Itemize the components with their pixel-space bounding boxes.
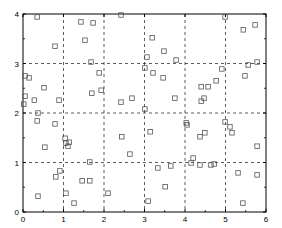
y-axis-tick-labels: 01234 [15,10,20,217]
data-point-marker [214,79,219,84]
data-point-marker [255,173,260,178]
scatter-chart: 0123456 01234 [0,0,282,228]
data-point-marker [150,36,155,41]
data-point-marker [191,156,196,161]
data-point-marker [36,194,41,199]
data-point-marker [128,152,133,157]
data-point-marker [145,55,150,60]
data-point-marker [79,20,84,25]
x-axis-tick-labels: 0123456 [21,215,269,224]
x-tick-label: 0 [21,215,26,224]
data-point-marker [90,91,95,96]
data-point-marker [206,85,211,90]
data-point-marker [228,125,233,130]
data-point-marker [88,179,93,184]
data-point-marker [255,144,260,149]
data-point-marker [199,85,204,90]
data-point-marker [223,120,228,125]
data-point-marker [119,13,124,18]
data-point-marker [88,160,93,165]
data-point-marker [253,23,258,28]
data-point-marker [174,58,179,63]
data-point-marker [106,191,111,196]
data-point-marker [163,185,168,190]
data-point-marker [43,145,48,150]
data-point-marker [143,107,148,112]
data-point-marker [57,98,62,103]
data-point-marker [241,28,246,33]
y-tick-label: 3 [15,60,20,69]
data-point-marker [53,44,58,49]
data-point-marker [198,163,203,168]
y-tick-label: 2 [15,109,20,118]
data-point-marker [169,164,174,169]
data-point-marker [42,86,47,91]
x-tick-label: 4 [183,215,188,224]
data-point-marker [22,102,27,107]
data-point-marker [199,99,204,104]
data-point-marker [143,66,148,71]
data-point-marker [54,175,59,180]
data-point-marker [198,135,203,140]
data-point-marker [32,98,37,103]
data-point-marker [189,161,194,166]
data-point-marker [91,21,96,26]
data-point-marker [161,76,166,81]
data-point-marker [120,135,125,140]
data-point-marker [58,169,63,174]
data-point-marker [83,38,88,43]
data-point-marker [35,119,40,124]
data-point-marker [156,166,161,171]
data-point-marker [148,130,153,135]
x-tick-label: 3 [142,215,147,224]
data-point-marker [130,96,135,101]
data-point-marker [53,122,58,127]
y-tick-label: 4 [15,10,20,19]
data-markers [22,13,260,206]
data-point-marker [236,171,241,176]
data-point-marker [151,71,156,76]
x-tick-label: 6 [264,215,269,224]
data-point-marker [35,15,40,20]
y-tick-label: 0 [15,208,20,217]
data-point-marker [230,131,235,136]
data-point-marker [97,71,102,76]
data-point-marker [119,100,124,105]
data-point-marker [241,201,246,206]
data-point-marker [243,74,248,79]
data-point-marker [146,199,151,204]
data-point-marker [162,49,167,54]
data-point-marker [72,201,77,206]
data-point-marker [203,131,208,136]
x-tick-label: 1 [61,215,66,224]
data-point-marker [202,96,207,101]
data-point-marker [80,179,85,184]
x-tick-label: 5 [223,215,228,224]
data-point-marker [99,88,104,93]
grid-lines [23,14,266,212]
data-point-marker [64,191,69,196]
data-point-marker [173,96,178,101]
x-tick-label: 2 [102,215,107,224]
y-tick-label: 1 [15,159,20,168]
data-point-marker [220,67,225,72]
